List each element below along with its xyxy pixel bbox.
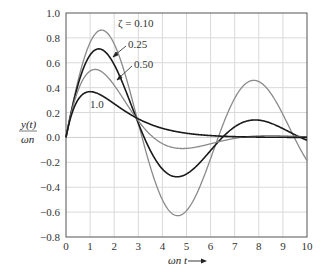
y-tick-label: −0.6	[40, 206, 60, 218]
x-tick-label: 3	[136, 240, 142, 252]
y-tick-label: 1.0	[46, 7, 60, 19]
svg-text:ωn t: ωn t	[168, 254, 188, 266]
y-tick-label: −0.2	[40, 156, 60, 168]
arrow-right-icon	[201, 259, 207, 264]
y-tick-label: −0.8	[40, 231, 60, 243]
y-tick-label: −0.4	[40, 181, 60, 193]
x-axis-label: ωn t	[168, 254, 207, 266]
y-axis-label: y(t) ωn	[19, 118, 37, 145]
x-axis-ticks: 012345678910	[63, 240, 313, 252]
x-tick-label: 9	[280, 240, 286, 252]
grid-lines	[66, 13, 307, 237]
x-tick-label: 1	[87, 240, 93, 252]
y-tick-label: 0.6	[46, 57, 60, 69]
y-tick-label: 0.0	[46, 131, 60, 143]
zeta-010-label: ζ = 0.10	[118, 17, 154, 30]
x-tick-label: 0	[63, 240, 69, 252]
y-tick-label: 0.2	[46, 107, 60, 119]
y-tick-label: 0.8	[46, 32, 60, 44]
x-tick-label: 7	[232, 240, 238, 252]
zeta-025-label: 0.25	[128, 38, 148, 50]
x-tick-label: 4	[160, 240, 166, 252]
x-tick-label: 10	[302, 240, 314, 252]
x-tick-label: 6	[208, 240, 214, 252]
y-axis-ticks: 1.00.80.60.40.20.0−0.2−0.4−0.6−0.8	[40, 7, 60, 243]
zeta-050-label: 0.50	[134, 58, 154, 70]
x-tick-label: 5	[184, 240, 190, 252]
x-tick-label: 8	[256, 240, 262, 252]
y-tick-label: 0.4	[46, 82, 60, 94]
svg-text:ωn: ωn	[21, 133, 35, 145]
impulse-response-chart: 1.00.80.60.40.20.0−0.2−0.4−0.6−0.8 01234…	[0, 0, 329, 273]
zeta-10-label: 1.0	[90, 98, 104, 110]
x-tick-label: 2	[111, 240, 117, 252]
svg-text:y(t): y(t)	[20, 118, 37, 131]
